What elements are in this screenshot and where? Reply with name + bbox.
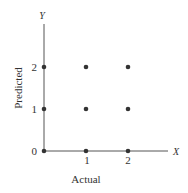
y-tick-2: 2 xyxy=(32,61,38,73)
y-tick-0: 0 xyxy=(32,145,38,157)
data-point xyxy=(42,65,47,70)
data-point xyxy=(42,149,47,154)
data-point xyxy=(84,107,89,112)
x-tick-1: 1 xyxy=(84,154,90,166)
y-axis-variable: Y xyxy=(39,10,46,21)
scatter-chart: Y X 2 1 0 1 2 Actual Predicted xyxy=(0,0,188,193)
data-point xyxy=(126,65,131,70)
x-tick-2: 2 xyxy=(125,154,131,166)
y-tick-1: 1 xyxy=(32,103,38,115)
data-point xyxy=(42,107,47,112)
y-axis-title: Predicted xyxy=(12,67,24,109)
x-axis-variable: X xyxy=(172,146,180,157)
data-point xyxy=(84,149,89,154)
data-point xyxy=(126,107,131,112)
data-points xyxy=(42,65,131,154)
data-point xyxy=(84,65,89,70)
x-axis-title: Actual xyxy=(71,173,100,185)
data-point xyxy=(126,149,131,154)
